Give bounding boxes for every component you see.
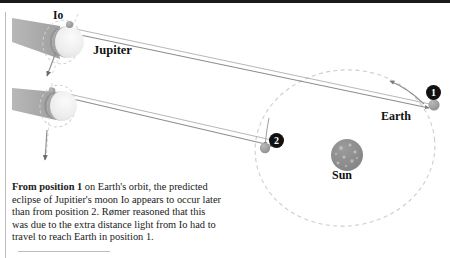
diagram-canvas: Io Jupiter Earth Sun 1 2 From position 1…	[0, 0, 450, 258]
io-label: Io	[53, 9, 63, 21]
jupiter-planet-icon-lower	[44, 91, 77, 121]
sun-label: Sun	[332, 168, 352, 183]
top-border	[0, 0, 450, 3]
earth-icon-position-2	[260, 143, 270, 153]
sight-line-to-position-2	[60, 96, 274, 146]
sun-icon	[331, 139, 363, 171]
sight-line-secondary-upper	[66, 27, 430, 104]
position-1-badge: 1	[426, 85, 441, 100]
position-2-badge: 2	[269, 133, 284, 148]
earth-icon-position-1	[428, 99, 439, 110]
earth-label: Earth	[381, 109, 411, 124]
caption-lead: From position 1	[12, 181, 82, 192]
io-moon-icon-lower	[49, 88, 56, 95]
jupiter-label: Jupiter	[93, 43, 132, 58]
io-moon-icon-upper	[66, 21, 73, 28]
arrow-down-icon-io-lower	[45, 130, 47, 160]
sight-line-secondary-lower	[60, 92, 276, 141]
figure-caption: From position 1 on Earth's orbit, the pr…	[12, 181, 224, 244]
